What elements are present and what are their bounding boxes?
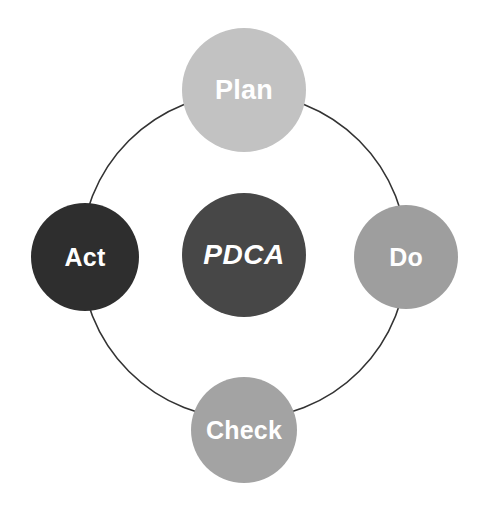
node-act-label: Act [65,245,106,270]
node-check[interactable]: Check [191,377,297,483]
node-plan[interactable]: Plan [182,28,306,152]
node-do[interactable]: Do [354,205,458,309]
node-do-label: Do [389,245,423,270]
node-pdca-center[interactable]: PDCA [182,193,306,317]
node-plan-label: Plan [215,77,273,104]
node-pdca-label: PDCA [203,241,284,269]
node-act[interactable]: Act [31,203,139,311]
pdca-cycle-diagram: Plan Do Check Act PDCA [0,0,487,508]
node-check-label: Check [206,418,282,443]
